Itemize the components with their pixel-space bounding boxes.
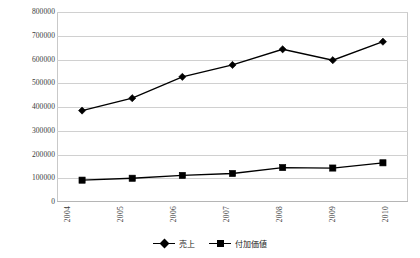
y-tick-label: 400000: [32, 103, 55, 111]
data-point[interactable]: [379, 38, 386, 45]
legend-item-value-added[interactable]: 付加価値: [209, 238, 267, 249]
y-tick-label: 800000: [32, 8, 55, 16]
x-tick-label: 2007: [223, 206, 231, 222]
data-point[interactable]: [279, 46, 286, 53]
x-tick-label: 2009: [329, 206, 337, 222]
chart-legend: 売上 付加価値: [0, 238, 420, 249]
x-tick-label: 2005: [117, 206, 125, 222]
data-point[interactable]: [380, 160, 386, 166]
data-point[interactable]: [78, 107, 85, 114]
data-point[interactable]: [329, 57, 336, 64]
diamond-marker-icon: [153, 239, 175, 249]
data-point[interactable]: [79, 177, 85, 183]
x-tick-label: 2008: [276, 206, 284, 222]
x-tick-label: 2006: [170, 206, 178, 222]
data-point[interactable]: [129, 175, 135, 181]
legend-label: 売上: [179, 238, 195, 249]
data-point[interactable]: [229, 170, 235, 176]
data-point[interactable]: [129, 95, 136, 102]
y-tick-label: 600000: [32, 56, 55, 64]
y-tick-label: 200000: [32, 151, 55, 159]
x-tick-label: 2004: [64, 206, 72, 222]
y-tick-label: 300000: [32, 127, 55, 135]
legend-label: 付加価値: [235, 238, 267, 249]
y-tick-label: 100000: [32, 175, 55, 183]
y-tick-label: 0: [51, 198, 55, 206]
plot-area: [57, 12, 408, 202]
line-chart: 800000 700000 600000 500000 400000 30000…: [0, 0, 420, 258]
data-point[interactable]: [179, 73, 186, 80]
data-point[interactable]: [179, 172, 185, 178]
data-point[interactable]: [280, 164, 286, 170]
series-line-1: [82, 42, 383, 111]
square-marker-icon: [209, 239, 231, 249]
data-point[interactable]: [330, 165, 336, 171]
legend-item-sales[interactable]: 売上: [153, 238, 195, 249]
series-layer: [57, 12, 408, 202]
y-tick-label: 700000: [32, 32, 55, 40]
data-point[interactable]: [229, 61, 236, 68]
x-tick-label: 2010: [382, 206, 390, 222]
y-tick-label: 500000: [32, 80, 55, 88]
